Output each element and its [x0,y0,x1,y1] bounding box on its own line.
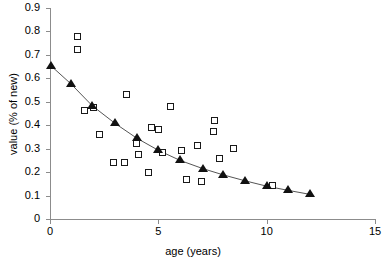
y-tick-label: 0.8 [10,25,40,36]
data-point-observed [230,145,237,152]
y-tick-label: 0.9 [10,2,40,13]
data-point-observed [96,131,103,138]
data-point-observed [167,103,174,110]
x-axis-line [50,219,376,220]
data-marks-layer [50,8,375,219]
x-tick-label: 0 [35,226,65,237]
x-tick-label: 15 [360,226,386,237]
data-point-observed [110,159,117,166]
data-point-observed [178,147,185,154]
data-point-fitted [283,185,293,193]
data-point-observed [74,33,81,40]
data-point-observed [194,142,201,149]
y-tick-label: 0.1 [10,190,40,201]
x-tick-label: 5 [143,226,173,237]
data-point-observed [198,178,205,185]
data-point-observed [74,46,81,53]
data-point-fitted [218,170,228,178]
x-tick [158,219,159,224]
data-point-fitted [175,155,185,163]
data-point-observed [135,151,142,158]
data-point-fitted [87,101,97,109]
scatter-chart: 00.10.20.30.40.50.60.70.80.9 051015 age … [0,0,386,265]
data-point-fitted [46,61,56,69]
data-point-observed [145,169,152,176]
data-point-observed [155,126,162,133]
data-point-observed [210,128,217,135]
data-point-fitted [198,164,208,172]
data-point-fitted [262,181,272,189]
data-point-fitted [305,189,315,197]
data-point-observed [121,159,128,166]
data-point-observed [148,124,155,131]
x-tick [267,219,268,224]
data-point-observed [216,155,223,162]
data-point-fitted [132,133,142,141]
data-point-fitted [240,176,250,184]
data-point-fitted [66,79,76,87]
y-axis-title: value (% of new) [7,54,19,174]
x-axis-title: age (years) [0,245,386,257]
x-tick [375,219,376,224]
y-tick-label: 0 [10,213,40,224]
x-tick-label: 10 [252,226,282,237]
data-point-observed [123,91,130,98]
data-point-observed [183,176,190,183]
data-point-observed [211,117,218,124]
data-point-fitted [153,145,163,153]
x-tick [50,219,51,224]
data-point-fitted [110,118,120,126]
